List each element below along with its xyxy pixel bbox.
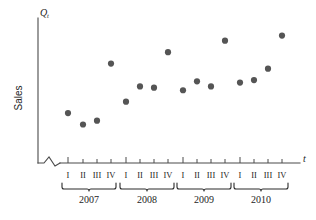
- x-axis-ticks: [68, 157, 282, 163]
- data-point: [94, 118, 100, 124]
- data-point: [65, 110, 71, 116]
- data-point: [123, 99, 129, 105]
- quarter-label: IV: [107, 170, 117, 180]
- year-label: 2010: [251, 194, 271, 205]
- year-label: 2009: [194, 194, 214, 205]
- quarter-label: II: [80, 170, 86, 180]
- year-brace: [177, 183, 231, 191]
- quarter-label: III: [93, 170, 102, 180]
- data-point: [222, 38, 228, 44]
- data-point: [194, 78, 200, 84]
- year-labels: 2007 2008 2009 2010: [79, 194, 271, 205]
- data-point: [180, 87, 186, 93]
- data-point: [165, 49, 171, 55]
- quarter-labels: I II III IV I II III IV I II III IV I II…: [67, 170, 288, 180]
- data-point: [137, 83, 143, 89]
- year-label: 2008: [137, 194, 157, 205]
- y-axis-title: Sales: [13, 85, 24, 110]
- year-brace: [62, 183, 116, 191]
- quarter-label: I: [67, 170, 70, 180]
- year-braces: [62, 183, 288, 191]
- data-point: [265, 66, 271, 72]
- quarter-label: IV: [278, 170, 288, 180]
- data-point: [237, 80, 243, 86]
- x-axis-symbol: t: [303, 153, 306, 164]
- quarter-label: IV: [221, 170, 231, 180]
- data-point: [251, 77, 257, 83]
- quarter-label: III: [150, 170, 159, 180]
- quarter-label: I: [239, 170, 242, 180]
- data-point-series: [65, 33, 285, 128]
- year-brace: [120, 183, 174, 191]
- x-axis-break-zigzag: [38, 157, 60, 166]
- quarter-label: I: [125, 170, 128, 180]
- sales-time-series-chart: Q t t Sales I II: [0, 0, 316, 220]
- quarter-label: III: [207, 170, 216, 180]
- quarter-label: III: [264, 170, 273, 180]
- quarter-label: II: [251, 170, 257, 180]
- quarter-label: IV: [164, 170, 174, 180]
- quarter-label: I: [182, 170, 185, 180]
- y-axis-symbol-subscript: t: [47, 12, 49, 19]
- quarter-label: II: [137, 170, 143, 180]
- data-point: [80, 121, 86, 127]
- data-point: [151, 85, 157, 91]
- data-point: [279, 33, 285, 39]
- data-point: [108, 60, 114, 66]
- quarter-label: II: [194, 170, 200, 180]
- year-brace: [234, 183, 288, 191]
- data-point: [208, 83, 214, 89]
- year-label: 2007: [79, 194, 99, 205]
